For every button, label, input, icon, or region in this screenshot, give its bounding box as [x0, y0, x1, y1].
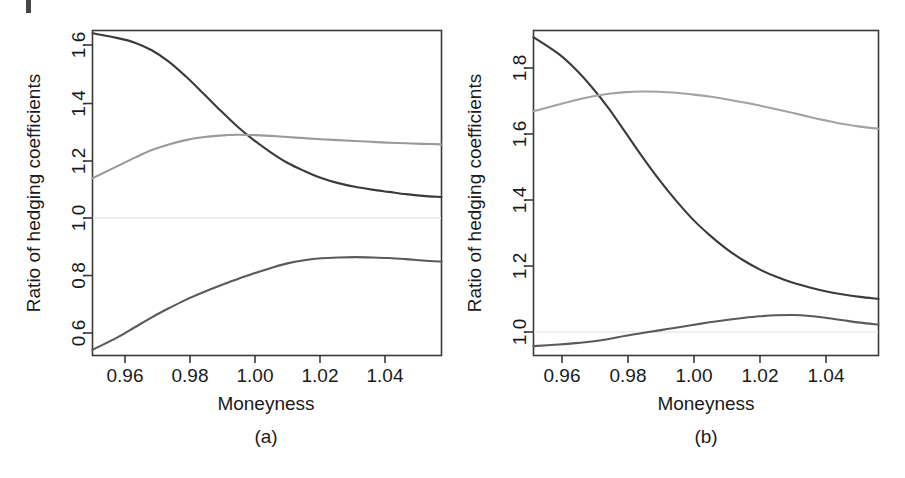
- panel-a-y-axis-title: Ratio of hedging coefficients: [23, 74, 44, 312]
- panel-a-xtick-1.02: 1.02: [302, 365, 339, 386]
- hedging-coefficients-figure: 1.6 1.4 1.2 1.0 0.8 0.6 0.96 0.98 1.00 1…: [0, 0, 905, 478]
- panel-a-y-ticks: [85, 45, 93, 333]
- panel-b-y-axis-title: Ratio of hedging coefficients: [464, 74, 485, 312]
- panel-b-caption: (b): [694, 426, 717, 447]
- panel-b-ytick-1.4: 1.4: [509, 186, 530, 213]
- panel-b-xtick-1.00: 1.00: [676, 365, 713, 386]
- panel-b-ytick-1.2: 1.2: [509, 253, 530, 279]
- panel-a-ytick-1.6: 1.6: [68, 32, 89, 58]
- panel-a-x-tick-labels: 0.96 0.98 1.00 1.02 1.04: [107, 365, 404, 386]
- panel-b-ytick-1.0: 1.0: [509, 319, 530, 345]
- panel-a: 1.6 1.4 1.2 1.0 0.8 0.6 0.96 0.98 1.00 1…: [23, 31, 442, 448]
- panel-b-x-axis-title: Moneyness: [657, 393, 754, 414]
- panel-b-ytick-1.6: 1.6: [509, 121, 530, 147]
- panel-b-ytick-1.8: 1.8: [509, 55, 530, 81]
- panel-a-ytick-0.8: 0.8: [68, 262, 89, 288]
- panel-a-ytick-1.4: 1.4: [68, 90, 89, 117]
- panel-a-ytick-1.2: 1.2: [68, 148, 89, 174]
- panel-a-ytick-0.6: 0.6: [68, 320, 89, 346]
- panel-b-y-tick-labels: 1.8 1.6 1.4 1.2 1.0: [509, 55, 530, 345]
- panel-b-xtick-0.98: 0.98: [610, 365, 647, 386]
- panel-a-y-tick-labels: 1.6 1.4 1.2 1.0 0.8 0.6: [68, 32, 89, 346]
- panel-b-x-ticks: [562, 356, 826, 364]
- panel-a-x-axis-title: Moneyness: [217, 393, 314, 414]
- panel-a-xtick-0.96: 0.96: [107, 365, 144, 386]
- panel-a-ytick-1.0: 1.0: [68, 205, 89, 231]
- panel-b-xtick-1.04: 1.04: [808, 365, 845, 386]
- panel-b-xtick-0.96: 0.96: [544, 365, 581, 386]
- panel-b: 1.8 1.6 1.4 1.2 1.0 0.96 0.98 1.00 1.02 …: [464, 31, 879, 448]
- panel-a-xtick-1.00: 1.00: [237, 365, 274, 386]
- panel-b-x-tick-labels: 0.96 0.98 1.00 1.02 1.04: [544, 365, 845, 386]
- panel-a-x-ticks: [125, 356, 385, 364]
- panel-a-caption: (a): [254, 426, 277, 447]
- panel-b-xtick-1.02: 1.02: [742, 365, 779, 386]
- panel-a-plot-frame: [93, 31, 442, 356]
- panel-a-xtick-1.04: 1.04: [367, 365, 404, 386]
- panel-a-xtick-0.98: 0.98: [172, 365, 209, 386]
